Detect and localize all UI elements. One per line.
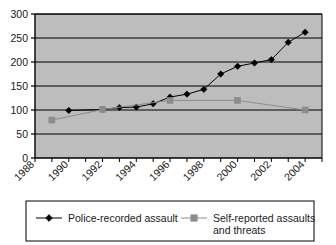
data-point-2-1992 — [100, 107, 106, 113]
legend: Police-recorded assaultSelf-reported ass… — [26, 201, 315, 241]
line-chart: 0501001502002503001988199019921994199619… — [0, 0, 336, 245]
y-tick-label-50: 50 — [16, 128, 28, 140]
x-tick-label-group-2002: 2002 — [248, 158, 273, 183]
x-tick-label-group-1996: 1996 — [146, 158, 171, 183]
legend-marker-square-icon — [191, 215, 197, 221]
data-point-2-1996 — [167, 97, 173, 103]
legend-label-2a: Self-reported assaults — [213, 212, 315, 224]
x-tick-label-group-1998: 1998 — [180, 158, 205, 183]
y-axis-ticks: 050100150200250300 — [10, 8, 35, 164]
y-tick-label-200: 200 — [10, 56, 28, 68]
y-tick-label-100: 100 — [10, 104, 28, 116]
x-axis-labels: 198819901992199419961998200020022004 — [11, 158, 306, 183]
y-tick-label-250: 250 — [10, 32, 28, 44]
y-tick-label-150: 150 — [10, 80, 28, 92]
chart-container: 0501001502002503001988199019921994199619… — [0, 0, 336, 245]
x-tick-label-2004: 2004 — [282, 158, 307, 183]
x-tick-label-group-1994: 1994 — [113, 158, 138, 183]
data-point-2-2004 — [302, 107, 308, 113]
x-tick-label-1998: 1998 — [180, 158, 205, 183]
legend-label-2b: and threats — [213, 224, 266, 236]
y-tick-label-300: 300 — [10, 8, 28, 20]
x-tick-label-group-2004: 2004 — [282, 158, 307, 183]
data-point-2-1989 — [49, 117, 55, 123]
x-tick-label-1994: 1994 — [113, 158, 138, 183]
x-tick-label-1996: 1996 — [146, 158, 171, 183]
data-point-2-2000 — [235, 97, 241, 103]
x-tick-label-2000: 2000 — [214, 158, 239, 183]
x-tick-label-1992: 1992 — [79, 158, 104, 183]
x-tick-label-1988: 1988 — [11, 158, 36, 183]
legend-label-1: Police-recorded assault — [68, 212, 178, 224]
x-tick-label-group-1988: 1988 — [11, 158, 36, 183]
x-tick-label-group-1992: 1992 — [79, 158, 104, 183]
x-tick-label-1990: 1990 — [45, 158, 70, 183]
x-tick-label-group-1990: 1990 — [45, 158, 70, 183]
x-tick-label-2002: 2002 — [248, 158, 273, 183]
x-tick-label-group-2000: 2000 — [214, 158, 239, 183]
